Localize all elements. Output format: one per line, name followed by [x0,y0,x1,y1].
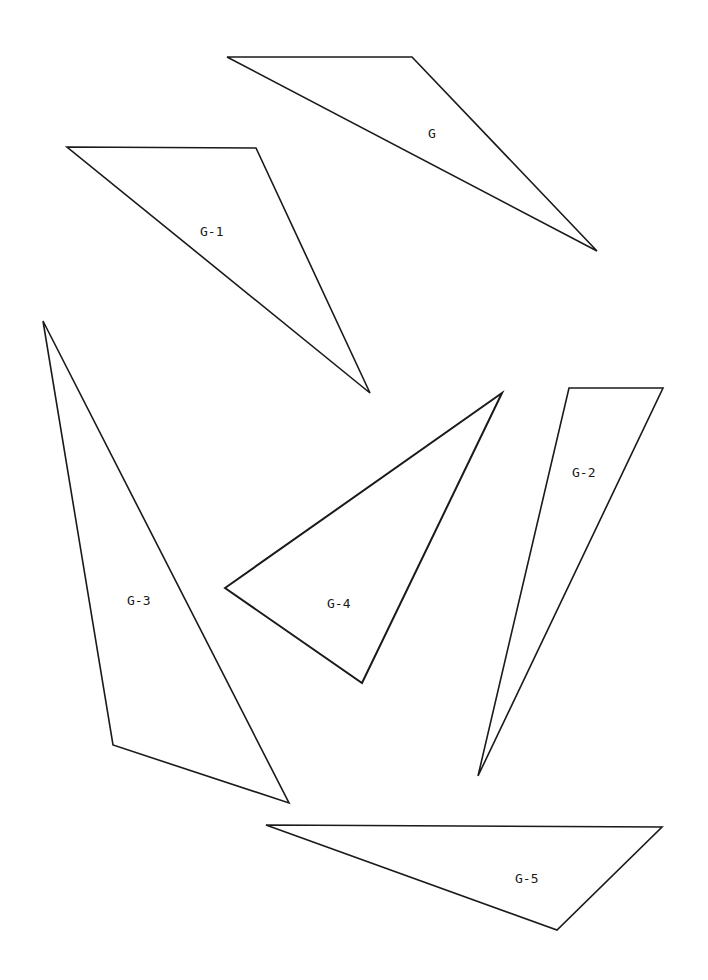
triangle-g-5-outline [266,825,662,930]
triangle-g-1: G-1 [67,147,370,393]
triangle-g-5-label: G-5 [515,871,538,886]
triangle-g-4-outline [225,393,502,683]
triangle-g-1-label: G-1 [200,224,223,239]
triangle-g-4-label: G-4 [327,596,351,611]
triangle-g-outline [227,57,597,251]
triangle-g-3-outline [43,321,289,803]
triangle-g-4: G-4 [225,393,502,683]
triangle-g-1-outline [67,147,370,393]
triangle-g-5: G-5 [266,825,662,930]
triangle-g-3: G-3 [43,321,289,803]
triangle-g-2-outline [478,388,663,776]
triangle-g-3-label: G-3 [127,593,150,608]
triangle-g-label: G [428,126,436,141]
triangle-g-2-label: G-2 [572,465,595,480]
triangle-g-2: G-2 [478,388,663,776]
triangle-figure: G G-1 G-3 G-4 G-2 G-5 [0,0,708,980]
triangle-g: G [227,57,597,251]
